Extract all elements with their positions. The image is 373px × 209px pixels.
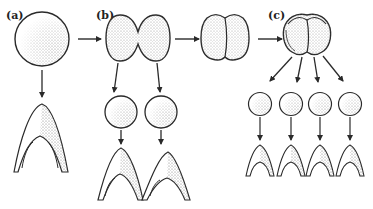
small-larva-icon [277, 145, 305, 176]
arrow-down-right-icon [157, 63, 160, 92]
arrow-icon [297, 57, 302, 82]
larva-icon [14, 104, 68, 172]
blastomere-icon [339, 93, 362, 116]
dividing-cell-icon [106, 15, 170, 61]
blastomere-icon [309, 93, 332, 116]
panel-c: (c) [246, 9, 364, 176]
panel-a: (a) [6, 9, 69, 172]
blastomere-icon [280, 93, 303, 116]
four-cell-embryo-icon [283, 14, 330, 54]
egg-cell-icon [15, 12, 69, 66]
arrow-icon [314, 57, 318, 82]
label-c: (c) [268, 9, 285, 22]
embryo-splitting-diagram: (a) (b) [0, 0, 373, 209]
blastomere-icon [249, 93, 272, 116]
blastomere-2-icon [145, 96, 177, 128]
small-larva-icon [246, 145, 274, 176]
small-larva-icon [336, 145, 364, 176]
two-cell-embryo-icon [201, 15, 249, 60]
panel-b: (b) [96, 9, 190, 200]
small-larva-icon [306, 145, 334, 176]
arrow-icon [270, 57, 292, 81]
larva-icon [98, 148, 143, 200]
larva-icon [142, 152, 190, 200]
label-a: (a) [6, 9, 24, 22]
blastomere-1-icon [105, 96, 137, 128]
arrow-icon [323, 56, 343, 81]
arrow-down-left-icon [114, 63, 118, 92]
